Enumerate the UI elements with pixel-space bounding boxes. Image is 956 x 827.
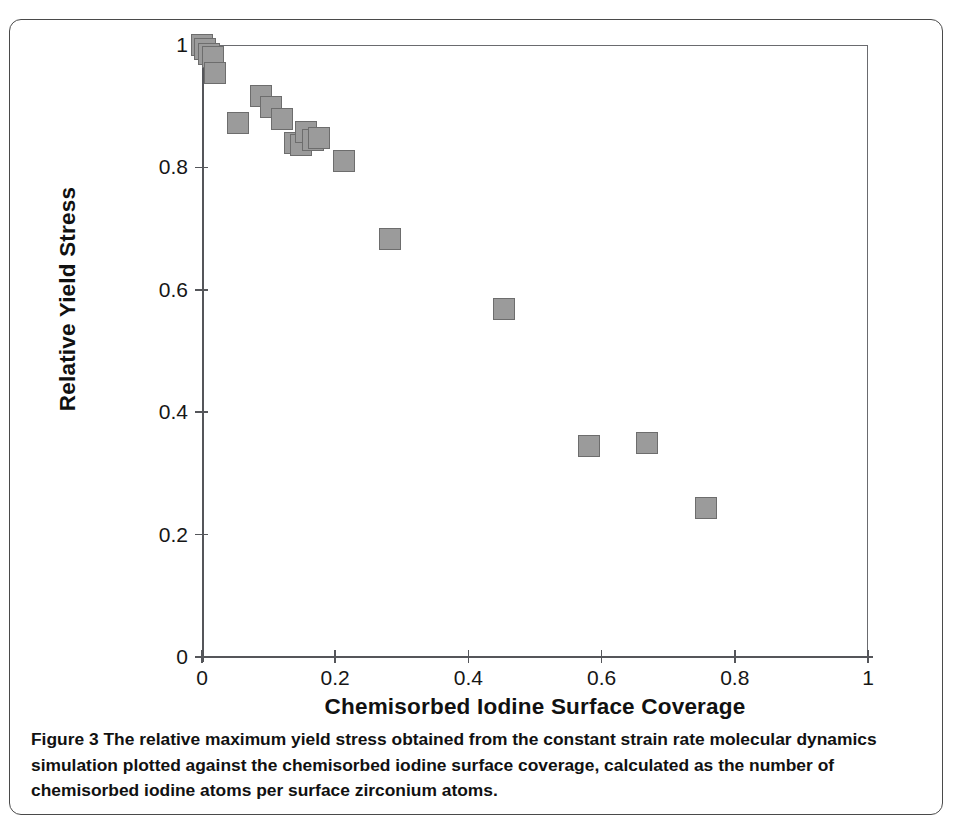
scatter-point: [333, 150, 355, 172]
figure-3: 00.20.40.60.81 00.20.40.60.81 Relative Y…: [0, 0, 956, 827]
scatter-point: [379, 228, 401, 250]
x-tick-label: 0.2: [305, 666, 365, 690]
scatter-point: [204, 62, 226, 84]
y-tick-label: 1: [144, 34, 188, 55]
scatter-point: [578, 435, 600, 457]
y-axis-title: Relative Yield Stress: [55, 169, 81, 429]
x-tick-label: 1: [838, 666, 898, 690]
scatter-point: [308, 127, 330, 149]
y-tick-label: 0.8: [144, 156, 188, 177]
figure-caption: Figure 3 The relative maximum yield stre…: [31, 727, 911, 804]
figure-caption-text: The relative maximum yield stress obtain…: [31, 729, 877, 800]
x-tick-label: 0.6: [572, 666, 632, 690]
scatter-point: [636, 432, 658, 454]
scatter-point: [227, 112, 249, 134]
x-axis-title: Chemisorbed Iodine Surface Coverage: [202, 694, 868, 720]
figure-caption-label: Figure 3: [31, 729, 99, 749]
x-tick-label: 0.8: [705, 666, 765, 690]
y-tick-label: 0.4: [144, 401, 188, 422]
scatter-point: [695, 497, 717, 519]
y-tick-label: 0.6: [144, 279, 188, 300]
x-tick-label: 0: [172, 666, 232, 690]
scatter-point: [271, 108, 293, 130]
y-tick-label: 0: [144, 646, 188, 667]
scatter-point: [493, 298, 515, 320]
y-tick-label: 0.2: [144, 524, 188, 545]
scatter-plot-area: [202, 45, 868, 657]
x-tick-label: 0.4: [438, 666, 498, 690]
